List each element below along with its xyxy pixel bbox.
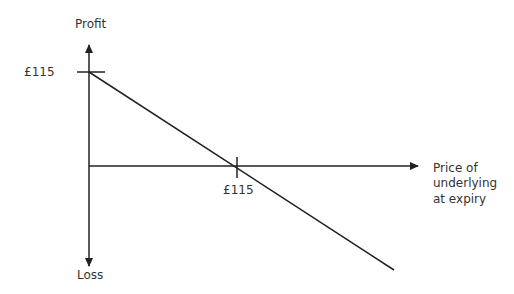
x-axis-label-line-2: underlying <box>433 176 497 191</box>
y-axis-bottom-label: Loss <box>77 268 103 283</box>
payoff-diagram <box>0 0 514 294</box>
y-axis-top-label: Profit <box>75 17 106 32</box>
payoff-line <box>89 72 394 270</box>
x-axis-label-line-1: Price of <box>433 161 478 176</box>
x-tick-label: £115 <box>223 183 254 198</box>
x-axis-label-line-3: at expiry <box>433 192 486 207</box>
y-tick-label: £115 <box>24 65 55 80</box>
